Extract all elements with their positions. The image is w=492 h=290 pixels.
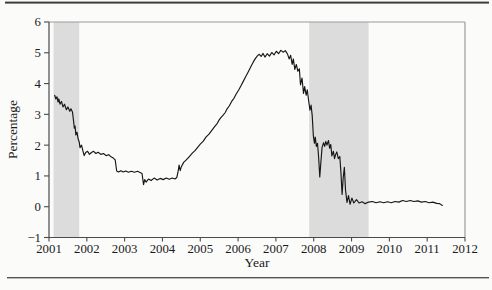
plot-frame xyxy=(49,22,465,238)
y-tick-label: 2 xyxy=(35,139,41,153)
axis-ticks xyxy=(44,22,465,242)
data-series xyxy=(55,50,443,205)
axis-tick-labels: −101234562001200220032004200520062007200… xyxy=(27,15,477,255)
x-tick-label: 2009 xyxy=(339,242,365,256)
y-tick-label: 5 xyxy=(35,46,41,60)
x-tick-label: 2006 xyxy=(225,242,251,256)
x-tick-label: 2008 xyxy=(301,242,327,256)
y-tick-label: 6 xyxy=(35,15,42,29)
recession-bands xyxy=(54,22,369,238)
x-tick-label: 2012 xyxy=(452,242,478,256)
figure: −101234562001200220032004200520062007200… xyxy=(0,0,492,290)
x-tick-label: 2007 xyxy=(263,242,289,256)
recession-band xyxy=(309,22,368,238)
x-tick-label: 2002 xyxy=(74,242,100,256)
y-tick-label: 3 xyxy=(35,108,41,122)
y-tick-label: 0 xyxy=(35,200,41,214)
bottom-rule xyxy=(7,277,489,278)
x-tick-label: 2005 xyxy=(187,242,213,256)
x-axis-title: Year xyxy=(245,255,270,270)
x-tick-label: 2010 xyxy=(377,242,403,256)
x-tick-label: 2003 xyxy=(112,242,138,256)
x-tick-label: 2004 xyxy=(150,242,176,256)
y-axis-title: Percentage xyxy=(5,100,20,159)
series-line-rate xyxy=(55,50,443,205)
y-tick-label: 4 xyxy=(35,77,42,91)
top-rule xyxy=(5,2,489,4)
y-tick-label: 1 xyxy=(35,169,41,183)
x-tick-label: 2001 xyxy=(36,242,62,256)
line-chart: −101234562001200220032004200520062007200… xyxy=(0,0,492,290)
x-tick-label: 2011 xyxy=(415,242,440,256)
